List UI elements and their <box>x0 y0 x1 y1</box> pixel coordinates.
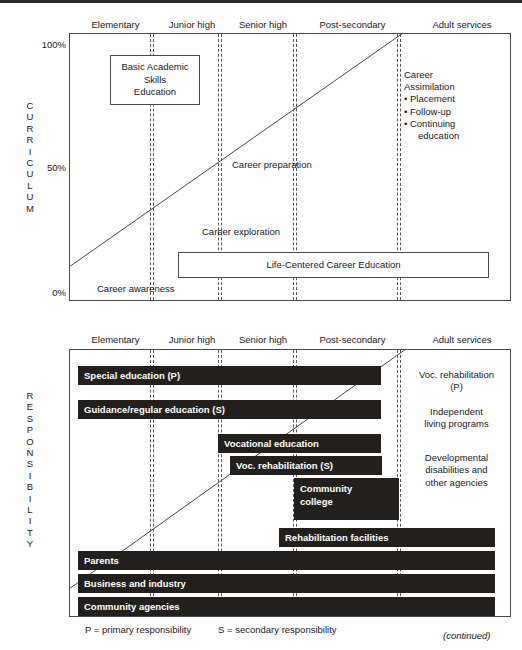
bar-community-college[interactable]: Community college <box>294 478 399 520</box>
bar-special-education[interactable]: Special education (P) <box>78 366 381 385</box>
basic-academic-skills-box: Basic Academic Skills Education <box>110 55 200 105</box>
legend-secondary-responsibility: S = secondary responsibility <box>218 624 337 635</box>
legend-primary-responsibility: P = primary responsibility <box>85 624 191 635</box>
basic-academic-line-3: Education <box>134 86 176 99</box>
assimilation-heading-2: Assimilation <box>404 81 504 93</box>
career-assimilation-block: Career Assimilation • Placement • Follow… <box>404 69 504 142</box>
note-voc-rehabilitation-primary: Voc. rehabilitation (P) <box>404 369 509 394</box>
assimilation-bullet-continuing: • Continuing education <box>404 118 504 142</box>
column-header-post-secondary-bottom: Post-secondary <box>305 334 400 345</box>
note-independent-living: Independent living programs <box>404 406 509 431</box>
column-header-senior-high-bottom: Senior high <box>228 334 298 345</box>
curriculum-axis-caption: CURRICULUM <box>22 100 38 214</box>
curriculum-ytick-100: 100% <box>30 39 66 50</box>
column-header-junior-high-bottom: Junior high <box>157 334 227 345</box>
assimilation-bullet-continuing-cont: education <box>411 130 504 142</box>
label-career-exploration: Career exploration <box>202 226 280 238</box>
column-header-junior-high: Junior high <box>157 19 227 30</box>
column-header-adult-services: Adult services <box>412 19 512 30</box>
bar-rehabilitation-facilities[interactable]: Rehabilitation facilities <box>279 528 495 547</box>
column-header-post-secondary: Post-secondary <box>305 19 400 30</box>
assimilation-bullet-followup: • Follow-up <box>404 106 504 118</box>
column-header-adult-services-bottom: Adult services <box>412 334 512 345</box>
bar-parents[interactable]: Parents <box>78 551 495 570</box>
column-header-elementary-bottom: Elementary <box>78 334 153 345</box>
lcce-box: Life-Centered Career Education <box>178 252 489 278</box>
page-top-rule <box>0 0 522 3</box>
curriculum-ytick-50: 50% <box>30 162 66 173</box>
label-career-awareness: Career awareness <box>97 283 175 295</box>
bar-guidance-regular-education[interactable]: Guidance/regular education (S) <box>78 400 381 419</box>
bar-community-agencies[interactable]: Community agencies <box>78 597 495 616</box>
bar-business-and-industry[interactable]: Business and industry <box>78 574 495 593</box>
assimilation-bullet-placement: • Placement <box>404 93 504 105</box>
bar-vocational-education[interactable]: Vocational education <box>218 434 381 453</box>
label-career-preparation: Career preparation <box>232 159 312 171</box>
column-header-senior-high: Senior high <box>228 19 298 30</box>
assimilation-bullet-list: • Placement • Follow-up • Continuing edu… <box>404 93 504 142</box>
lcce-box-label: Life-Centered Career Education <box>266 259 400 272</box>
basic-academic-line-1: Basic Academic <box>121 61 188 74</box>
basic-academic-line-2: Skills <box>144 74 166 87</box>
bar-voc-rehabilitation-secondary[interactable]: Voc. rehabilitation (S) <box>230 456 382 475</box>
responsibility-axis-caption: RESPONSIBILITY <box>22 390 38 550</box>
continued-note: (continued) <box>443 630 491 641</box>
curriculum-ytick-0: 0% <box>30 287 66 298</box>
note-developmental-disabilities: Developmental disabilities and other age… <box>404 452 509 489</box>
assimilation-heading-1: Career <box>404 69 504 81</box>
column-header-elementary: Elementary <box>78 19 153 30</box>
